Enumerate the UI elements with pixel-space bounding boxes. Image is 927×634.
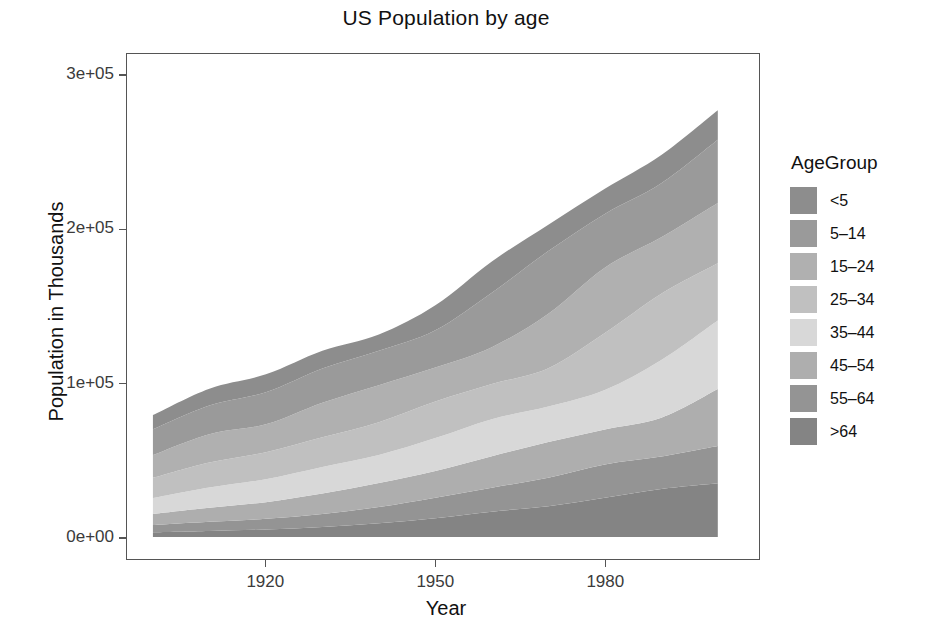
y-tick-mark [119,229,126,230]
legend-swatch-icon [790,385,817,412]
legend-item[interactable]: >64 [790,417,920,446]
y-tick-label: 3e+05 [14,64,114,84]
legend-item-label: >64 [830,423,857,441]
legend-item[interactable]: 15–24 [790,252,920,281]
legend-item[interactable]: 5–14 [790,219,920,248]
legend: AgeGroup <55–1415–2425–3435–4445–5455–64… [790,152,920,450]
legend-swatch-icon [790,352,817,379]
y-tick-label: 2e+05 [14,218,114,238]
legend-item-label: <5 [830,192,848,210]
legend-item[interactable]: 25–34 [790,285,920,314]
y-tick-mark [119,537,126,538]
x-tick-label: 1920 [220,572,310,592]
legend-item[interactable]: 35–44 [790,318,920,347]
legend-item[interactable]: <5 [790,186,920,215]
legend-item-label: 35–44 [830,324,875,342]
legend-swatch-icon [790,253,817,280]
legend-title: AgeGroup [791,152,920,174]
y-tick-mark [119,74,126,75]
x-tick-label: 1950 [390,572,480,592]
legend-swatch-icon [790,418,817,445]
y-tick-label: 1e+05 [14,373,114,393]
legend-swatch-icon [790,187,817,214]
legend-item-label: 45–54 [830,357,875,375]
legend-swatch-icon [790,220,817,247]
legend-item-label: 55–64 [830,390,875,408]
legend-items: <55–1415–2425–3435–4445–5455–64>64 [790,186,920,446]
legend-item[interactable]: 45–54 [790,351,920,380]
y-tick-label: 0e+00 [14,527,114,547]
legend-item-label: 25–34 [830,291,875,309]
legend-item[interactable]: 55–64 [790,384,920,413]
x-tick-mark [265,560,266,567]
chart-root: US Population by age Population in Thous… [0,0,927,634]
legend-item-label: 5–14 [830,225,866,243]
x-tick-label: 1980 [560,572,650,592]
axis-tick-layer: 0e+001e+052e+053e+05192019501980 [0,0,927,634]
x-tick-mark [605,560,606,567]
x-tick-mark [435,560,436,567]
legend-item-label: 15–24 [830,258,875,276]
y-tick-mark [119,383,126,384]
legend-swatch-icon [790,319,817,346]
legend-swatch-icon [790,286,817,313]
